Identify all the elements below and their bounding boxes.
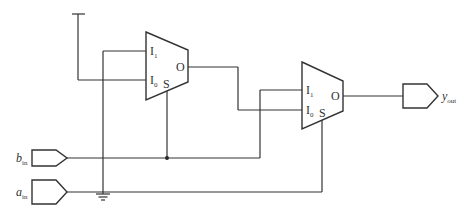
wire-mux1-i1-to-ground	[103, 51, 146, 194]
circuit-diagram: I1 I0 O S bin I1 I0 O S ain	[0, 0, 466, 219]
mux2-sel-label: S	[319, 106, 326, 120]
mux1: I1 I0 O S	[146, 32, 188, 100]
input-port-b-in: bin	[16, 150, 67, 167]
mux1-out-label: O	[176, 60, 185, 74]
wire-mux1-out-to-mux2-i0	[188, 67, 302, 110]
b-in-label: bin	[16, 151, 28, 167]
y-out-label: yout	[441, 89, 456, 105]
wire-b-in	[67, 90, 302, 158]
mux2: I1 I0 O S	[302, 62, 343, 129]
mux2-out-label: O	[331, 89, 340, 103]
a-in-label: ain	[16, 185, 28, 201]
output-port-y-out: yout	[403, 84, 456, 108]
supply-symbol	[72, 14, 85, 80]
ground-icon	[96, 194, 110, 200]
mux1-sel-label: S	[163, 77, 170, 91]
input-port-a-in: ain	[16, 180, 67, 204]
wire-a-in-to-mux2-sel	[67, 120, 322, 192]
